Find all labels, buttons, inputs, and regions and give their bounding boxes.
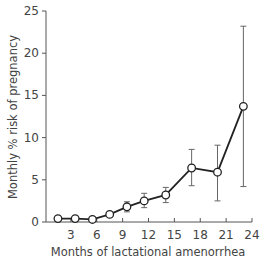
data-point-marker — [214, 168, 222, 176]
y-axis-title: Monthly % risk of pregnancy — [6, 35, 20, 199]
data-line — [58, 106, 243, 219]
x-tick-label: 12 — [141, 228, 156, 242]
y-tick-label: 0 — [31, 215, 39, 229]
data-point-marker — [89, 216, 97, 224]
data-point-marker — [123, 203, 131, 211]
data-point-marker — [188, 164, 196, 172]
y-tick-label: 10 — [24, 131, 39, 145]
data-point-marker — [106, 211, 114, 219]
x-tick-label: 24 — [244, 228, 259, 242]
x-tick-label: 3 — [67, 228, 75, 242]
x-tick-label: 6 — [93, 228, 101, 242]
data-point-marker — [240, 103, 248, 111]
chart: 05101520253691215182124 Months of lactat… — [0, 0, 266, 261]
x-axis-title: Months of lactational amenorrhea — [51, 245, 246, 259]
x-tick-label: 21 — [218, 228, 233, 242]
y-tick-label: 5 — [31, 173, 39, 187]
y-tick-label: 25 — [24, 4, 39, 18]
data-point-marker — [140, 197, 148, 205]
y-tick-label: 15 — [24, 88, 39, 102]
y-tick-label: 20 — [24, 46, 39, 60]
x-tick-label: 9 — [119, 228, 127, 242]
data-point-marker — [162, 191, 170, 199]
error-bars — [124, 26, 246, 212]
x-tick-label: 18 — [193, 228, 208, 242]
data-points — [54, 103, 247, 224]
axes: 05101520253691215182124 — [24, 4, 260, 242]
x-tick-label: 15 — [167, 228, 182, 242]
series-line — [58, 106, 243, 219]
data-point-marker — [71, 215, 79, 223]
data-point-marker — [54, 215, 62, 223]
